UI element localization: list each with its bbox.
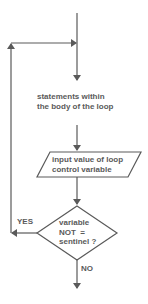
decision-line-3: sentinel ? — [59, 237, 96, 247]
flowchart: statements within the body of the loop i… — [0, 0, 148, 304]
yes-label: YES — [17, 217, 33, 227]
input-node-line-1: input value of loop — [52, 155, 123, 165]
input-node-label: input value of loop control variable — [52, 155, 123, 175]
input-node-line-2: control variable — [52, 165, 123, 175]
loop-body-line-2: the body of the loop — [37, 102, 113, 112]
loop-body-label: statements within the body of the loop — [37, 92, 113, 112]
decision-label: variable NOT = sentinel ? — [59, 218, 96, 247]
no-label: NO — [81, 264, 93, 274]
flowchart-graphics — [0, 0, 148, 304]
decision-line-1: variable — [59, 218, 96, 228]
loop-body-line-1: statements within — [37, 92, 113, 102]
decision-line-2: NOT = — [59, 228, 96, 238]
